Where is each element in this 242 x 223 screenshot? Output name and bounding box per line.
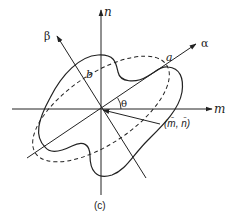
region-outline <box>39 55 183 176</box>
semi-axis-a-label: a <box>166 51 173 64</box>
diagram-canvas: m n α β a b θ (m̄, n̄) (c) <box>0 0 242 223</box>
alpha-axis-label: α <box>201 37 209 50</box>
beta-axis-label: β <box>44 30 50 43</box>
figure-caption: (c) <box>94 200 106 211</box>
semi-axis-b-label: b <box>86 68 93 81</box>
n-axis-label: n <box>104 5 112 19</box>
moment-axes-diagram: m n α β a b θ (m̄, n̄) (c) <box>0 0 242 223</box>
centroid-pointer <box>103 110 160 124</box>
theta-label: θ <box>121 98 127 109</box>
m-axis-label: m <box>214 102 225 116</box>
centroid-label: (m̄, n̄) <box>164 117 190 129</box>
